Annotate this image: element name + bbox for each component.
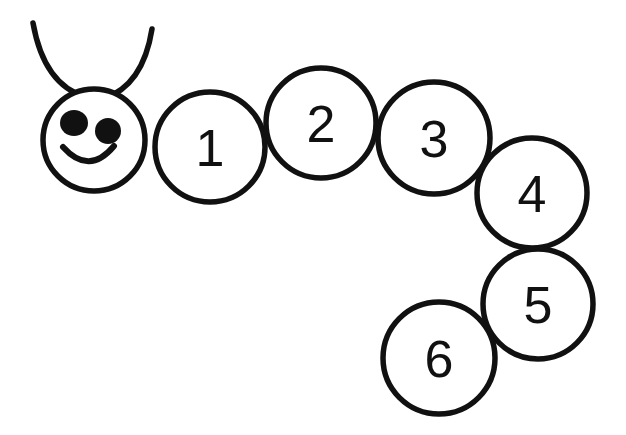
body-segment-2[interactable]: 2 — [266, 68, 376, 178]
segment-number-5: 5 — [524, 276, 553, 334]
segment-number-1: 1 — [196, 119, 225, 177]
body-segment-3[interactable]: 3 — [378, 82, 490, 194]
caterpillar-illustration: 123456 — [0, 0, 626, 435]
caterpillar-head[interactable] — [43, 89, 145, 191]
segment-number-6: 6 — [425, 330, 454, 388]
body-segment-5[interactable]: 5 — [483, 249, 593, 359]
body-segment-1[interactable]: 1 — [155, 92, 265, 202]
right-eye-icon — [95, 118, 121, 144]
head-outline[interactable] — [43, 89, 145, 191]
left-eye-icon — [60, 110, 88, 136]
worksheet-canvas: 123456 — [0, 0, 626, 435]
segment-number-2: 2 — [307, 95, 336, 153]
segment-number-4: 4 — [518, 165, 547, 223]
body-segment-4[interactable]: 4 — [477, 138, 587, 248]
segment-number-3: 3 — [420, 110, 449, 168]
body-segment-6[interactable]: 6 — [383, 302, 495, 414]
